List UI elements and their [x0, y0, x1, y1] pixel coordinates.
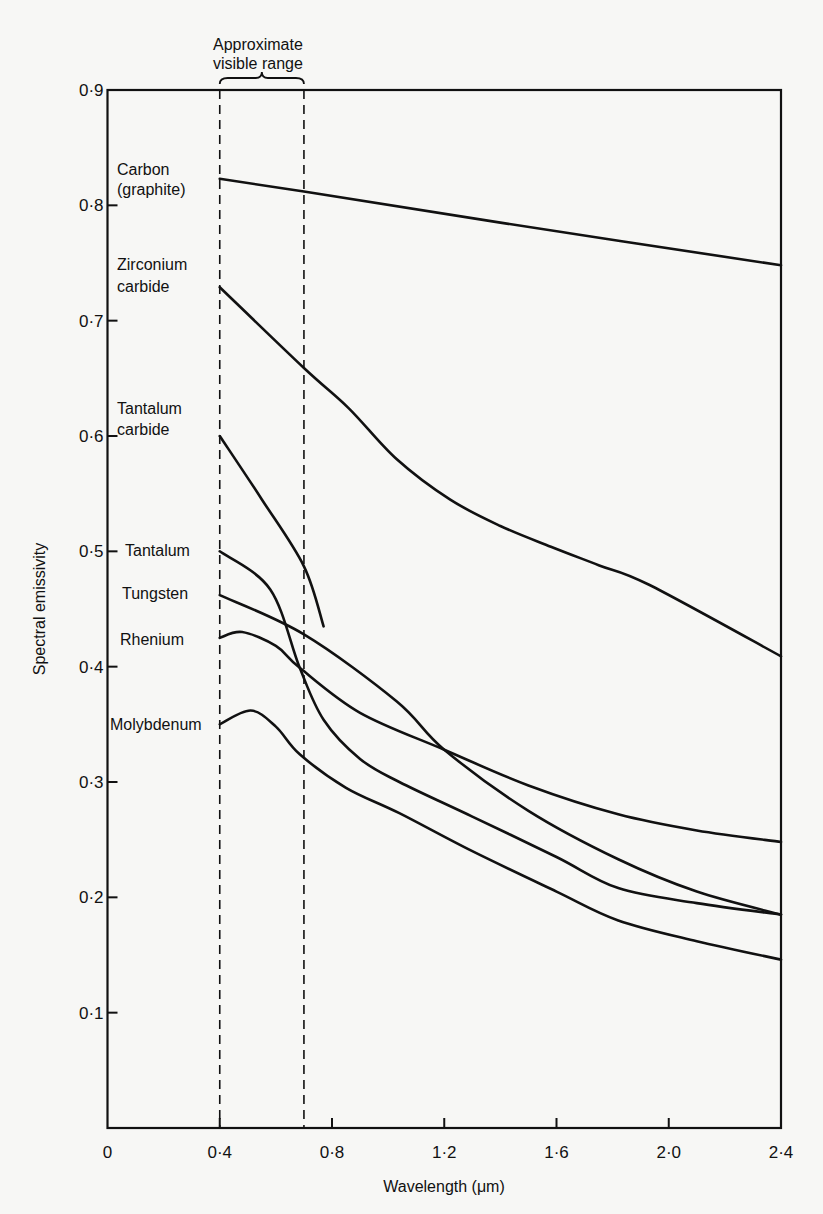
series-label-carbon-graphite: Carbon	[117, 161, 169, 178]
y-tick-label: 0·3	[79, 773, 104, 792]
axes: 0·10·20·30·40·50·60·70·80·900·40·81·21·6…	[79, 81, 793, 1162]
x-tick-label: 1·6	[544, 1143, 569, 1162]
series-line-tantalum-carbide	[220, 436, 324, 626]
y-tick-label: 0·7	[79, 312, 104, 331]
curly-brace-icon	[220, 72, 304, 84]
series-label-rhenium: Rhenium	[120, 631, 184, 648]
x-tick-label: 0·4	[207, 1143, 232, 1162]
y-tick-label: 0·2	[79, 888, 104, 907]
plot-frame	[108, 90, 782, 1128]
series-label-tantalum-carbide: carbide	[117, 421, 170, 438]
y-tick-label: 0·1	[79, 1004, 104, 1023]
series-label-zirconium-carbide: Zirconium	[117, 256, 187, 273]
visible-range-annotation: Approximatevisible range	[213, 36, 304, 1128]
series-label-carbon-graphite: (graphite)	[117, 181, 185, 198]
x-tick-label: 2·4	[769, 1143, 794, 1162]
series-label-tantalum: Tantalum	[125, 542, 190, 559]
y-tick-label: 0·5	[79, 542, 104, 561]
emissivity-chart: 0·10·20·30·40·50·60·70·80·900·40·81·21·6…	[0, 0, 823, 1214]
y-axis-label: Spectral emissivity	[31, 543, 48, 675]
y-tick-label: 0·6	[79, 427, 104, 446]
y-tick-label: 0·9	[79, 81, 104, 100]
x-tick-label: 0·8	[320, 1143, 345, 1162]
series-label-molybdenum: Molybdenum	[110, 716, 202, 733]
annotation-text-line2: visible range	[213, 55, 303, 72]
y-tick-label: 0·8	[79, 196, 104, 215]
annotation-text-line1: Approximate	[213, 36, 303, 53]
x-tick-label: 2·0	[656, 1143, 681, 1162]
y-tick-label: 0·4	[79, 658, 104, 677]
series-line-carbon-graphite	[220, 179, 781, 266]
x-axis-label: Wavelength (μm)	[383, 1178, 505, 1195]
series-label-tungsten: Tungsten	[122, 585, 188, 602]
series-label-tantalum-carbide: Tantalum	[117, 400, 182, 417]
x-tick-label: 1·2	[432, 1143, 457, 1162]
x-tick-label: 0	[103, 1143, 112, 1162]
series-labels: Carbon(graphite)ZirconiumcarbideTantalum…	[110, 161, 202, 733]
series-label-zirconium-carbide: carbide	[117, 278, 170, 295]
